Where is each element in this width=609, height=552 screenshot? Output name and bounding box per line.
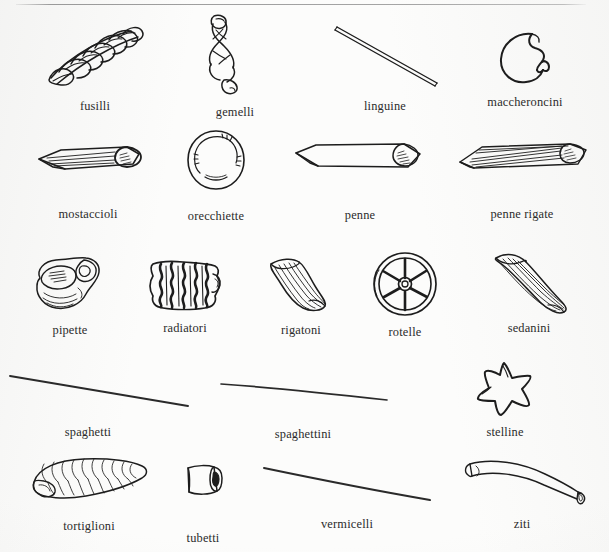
orecchiette-disc-icon — [173, 127, 259, 193]
pasta-item-pipette[interactable]: pipette — [8, 248, 132, 336]
penne-tube-icon — [288, 135, 433, 185]
pasta-item-penne-rigate[interactable]: penne rigate — [442, 137, 602, 220]
radiatori-ruffle-icon — [139, 250, 231, 318]
tortiglioni-spiral-tube-icon — [14, 452, 164, 510]
mostaccioli-tube-icon — [21, 133, 156, 189]
pipette-elbow-icon — [20, 248, 120, 318]
ziti-tube-icon — [450, 452, 595, 508]
pasta-item-spaghettini[interactable]: spaghettini — [215, 368, 391, 440]
pasta-item-ziti[interactable]: ziti — [442, 452, 602, 530]
gemelli-twist-icon — [180, 10, 290, 96]
fusilli-spiral-icon — [35, 14, 155, 92]
top-horizontal-rule — [16, 4, 586, 5]
pasta-label: pipette — [8, 324, 132, 336]
pasta-label: spaghetti — [0, 426, 176, 438]
rigatoni-ridged-tube-icon — [253, 252, 349, 316]
pasta-label: penne — [280, 209, 440, 221]
pasta-label: sedanini — [455, 322, 603, 334]
pasta-item-sedanini[interactable]: sedanini — [455, 248, 603, 334]
pasta-item-radiatori[interactable]: radiatori — [128, 250, 242, 334]
pasta-label: penne rigate — [442, 208, 602, 220]
pasta-item-orecchiette[interactable]: orecchiette — [148, 127, 284, 222]
pasta-item-rotelle[interactable]: rotelle — [355, 250, 455, 338]
pasta-chart-page: fusilli — [0, 0, 609, 552]
pasta-label: maccheroncini — [450, 96, 600, 108]
rotelle-wheel-icon — [364, 250, 446, 320]
pasta-label: rigatoni — [242, 324, 360, 336]
pasta-item-linguine[interactable]: linguine — [295, 14, 475, 112]
pasta-item-tubetti[interactable]: tubetti — [148, 458, 258, 544]
pasta-label: radiatori — [128, 322, 242, 334]
maccheroncini-curve-icon — [480, 24, 570, 90]
pasta-label: stelline — [440, 426, 570, 438]
pasta-label: spaghettini — [215, 428, 391, 440]
pasta-label: rotelle — [355, 326, 455, 338]
stelline-star-icon — [470, 358, 540, 420]
pasta-label: ziti — [442, 518, 602, 530]
spaghettini-strand-icon — [215, 368, 395, 418]
pasta-item-rigatoni[interactable]: rigatoni — [242, 252, 360, 336]
pasta-item-spaghetti[interactable]: spaghetti — [0, 362, 176, 438]
tubetti-short-tube-icon — [172, 458, 234, 508]
pasta-item-stelline[interactable]: stelline — [440, 358, 570, 438]
pasta-item-vermicelli[interactable]: vermicelli — [252, 456, 442, 530]
penne-rigate-ridged-tube-icon — [450, 137, 595, 183]
pasta-item-maccheroncini[interactable]: maccheroncini — [450, 24, 600, 108]
sedanini-curved-tube-icon — [474, 248, 584, 318]
spaghetti-strand-icon — [0, 362, 190, 420]
pasta-label: linguine — [295, 100, 475, 112]
linguine-strand-icon — [315, 14, 455, 94]
vermicelli-strand-icon — [252, 456, 442, 506]
pasta-item-penne[interactable]: penne — [280, 135, 440, 221]
pasta-label: orecchiette — [148, 210, 284, 222]
pasta-label: vermicelli — [252, 518, 442, 530]
pasta-label: tubetti — [148, 532, 258, 544]
